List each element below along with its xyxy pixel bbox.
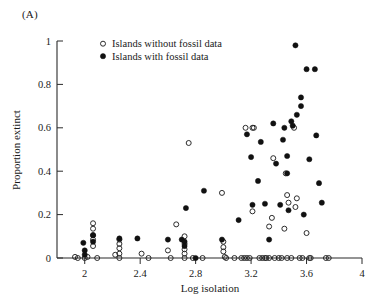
data-point (186, 140, 191, 145)
y-tick-label: 0.2 (38, 209, 51, 220)
data-point (182, 243, 187, 248)
data-point (90, 239, 95, 244)
data-point (236, 217, 241, 222)
data-point (319, 200, 324, 205)
data-point (82, 252, 87, 257)
data-point (314, 133, 319, 138)
data-point (269, 215, 274, 220)
x-tick-label: 2.8 (189, 268, 202, 279)
data-point (293, 43, 298, 48)
data-point (255, 178, 260, 183)
data-point (244, 132, 249, 137)
data-point (282, 226, 287, 231)
y-tick-label: 0.8 (38, 79, 51, 90)
legend-label: Islands without fossil data (112, 38, 222, 49)
data-point (286, 208, 291, 213)
series-islands-with-fossil-data (81, 43, 325, 261)
data-point (293, 205, 298, 210)
data-point (273, 161, 278, 166)
data-point (304, 231, 309, 236)
data-point (304, 67, 309, 72)
data-point (117, 236, 122, 241)
data-point (285, 171, 290, 176)
data-point (294, 112, 299, 117)
y-tick-label: 0 (46, 253, 51, 264)
legend-marker-open-circle-icon (101, 41, 106, 46)
x-tick-label: 3.6 (300, 268, 313, 279)
data-point (250, 202, 255, 207)
data-point (139, 251, 144, 256)
figure-panel-a: (A) 00.20.40.60.81 22.42.83.23.64 Propor… (0, 0, 378, 308)
x-tick-label: 2.4 (134, 268, 148, 279)
data-point (193, 255, 198, 260)
data-point (316, 181, 321, 186)
plot-axes (57, 41, 362, 258)
data-point (219, 237, 224, 242)
data-point (135, 236, 140, 241)
data-point (285, 153, 290, 158)
data-point (174, 222, 179, 227)
data-point (267, 237, 272, 242)
data-point (250, 209, 255, 214)
data-point (165, 248, 170, 253)
y-tick-label: 0.4 (38, 166, 52, 177)
data-point (271, 121, 276, 126)
data-point (262, 201, 267, 206)
data-point (91, 226, 96, 231)
legend: Islands without fossil dataIslands with … (100, 38, 222, 62)
y-tick-label: 0.6 (38, 122, 51, 133)
y-axis-title: Proportion extinct (10, 110, 22, 190)
data-point (90, 233, 95, 238)
data-point (290, 123, 295, 128)
scatter-plot: 00.20.40.60.81 22.42.83.23.64 Proportion… (0, 0, 378, 308)
data-point (286, 200, 291, 205)
x-tick-label: 2 (82, 268, 87, 279)
x-tick-label: 3.2 (245, 268, 258, 279)
data-point (91, 221, 96, 226)
legend-label: Islands with fossil data (112, 51, 209, 62)
legend-marker-filled-circle-icon (100, 54, 105, 59)
data-point (285, 193, 290, 198)
data-point (280, 137, 285, 142)
data-point (278, 202, 283, 207)
data-point (271, 156, 276, 161)
data-point (282, 125, 287, 130)
y-axis-ticks: 00.20.40.60.81 (38, 36, 63, 264)
data-point (243, 125, 248, 130)
data-point (248, 154, 253, 159)
x-axis-title: Log isolation (181, 282, 240, 294)
data-point (301, 212, 306, 217)
data-point (258, 139, 263, 144)
data-point (183, 205, 188, 210)
data-point (267, 224, 272, 229)
y-tick-label: 1 (46, 36, 51, 47)
data-point (165, 237, 170, 242)
series-islands-without-fossil-data (73, 125, 332, 260)
data-point (298, 95, 303, 100)
data-point (81, 240, 86, 245)
x-tick-label: 4 (359, 268, 365, 279)
x-axis-ticks: 22.42.83.23.64 (82, 258, 365, 279)
data-point (312, 67, 317, 72)
data-point (201, 188, 206, 193)
data-point (219, 190, 224, 195)
data-point (298, 104, 303, 109)
data-point (307, 157, 312, 162)
data-point (294, 196, 299, 201)
